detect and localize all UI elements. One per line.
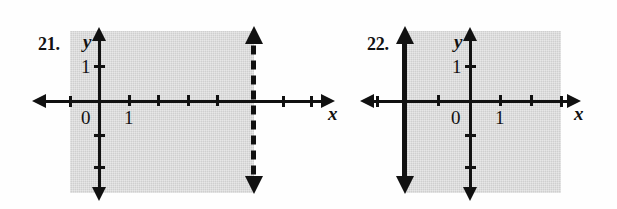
- figure-22-y-one-label: 1: [452, 57, 462, 76]
- figure-22-shaded-region: [404, 31, 561, 193]
- figure-21-x-tick: [157, 95, 160, 106]
- figure-22-y-tick: [465, 134, 476, 137]
- figure-22-x-axis-label: x: [574, 104, 584, 123]
- figure-22-x-tick: [530, 95, 533, 106]
- figure-sheet: 21. y 1 0 1 x 22.: [0, 0, 617, 209]
- figure-22-origin-label: 0: [451, 108, 461, 127]
- figure-22-x-tick: [376, 96, 379, 107]
- figure-22-number-label: 22.: [367, 34, 389, 55]
- figure-21-x-tick: [69, 96, 72, 107]
- figure-22-x-tick: [560, 96, 563, 107]
- figure-22: 22. y 1 0 1 x: [340, 0, 617, 209]
- figure-21-x-one-label: 1: [124, 108, 134, 127]
- figure-22-y-tick: [465, 65, 476, 68]
- figure-21-y-axis-down-arrow-icon: [92, 187, 106, 201]
- figure-21-x-tick: [282, 96, 285, 107]
- figure-22-y-axis-down-arrow-icon: [463, 187, 477, 201]
- figure-22-y-axis-up-arrow-icon: [463, 27, 477, 41]
- figure-21-x-tick: [310, 96, 313, 107]
- figure-22-x-one-label: 1: [495, 108, 505, 127]
- figure-22-boundary-line: [402, 42, 407, 184]
- figure-21-x-tick: [187, 95, 190, 106]
- figure-21-y-axis-up-arrow-icon: [92, 27, 106, 41]
- figure-21: 21. y 1 0 1 x: [0, 0, 340, 209]
- figure-21-boundary-line: [251, 42, 256, 184]
- figure-21-x-tick: [216, 95, 219, 106]
- figure-21-y-tick: [94, 134, 105, 137]
- figure-22-x-tick: [437, 95, 440, 106]
- figure-21-boundary-up-arrow-icon: [245, 26, 263, 44]
- figure-22-y-tick: [465, 166, 476, 169]
- figure-21-origin-label: 0: [81, 108, 91, 127]
- figure-21-x-axis-label: x: [328, 104, 338, 123]
- figure-21-x-tick: [128, 95, 131, 106]
- figure-22-boundary-down-arrow-icon: [396, 176, 414, 194]
- figure-21-y-tick: [94, 65, 105, 68]
- figure-21-y-one-label: 1: [81, 57, 91, 76]
- figure-21-boundary-down-arrow-icon: [245, 176, 263, 194]
- figure-21-x-axis-left-arrow-icon: [32, 94, 46, 108]
- figure-22-boundary-up-arrow-icon: [396, 26, 414, 44]
- figure-21-y-tick: [94, 166, 105, 169]
- figure-21-y-axis-label: y: [83, 32, 91, 51]
- figure-22-x-tick: [499, 95, 502, 106]
- figure-22-y-axis-label: y: [454, 32, 462, 51]
- figure-21-number-label: 21.: [38, 34, 60, 55]
- figure-22-x-axis-left-arrow-icon: [360, 94, 374, 108]
